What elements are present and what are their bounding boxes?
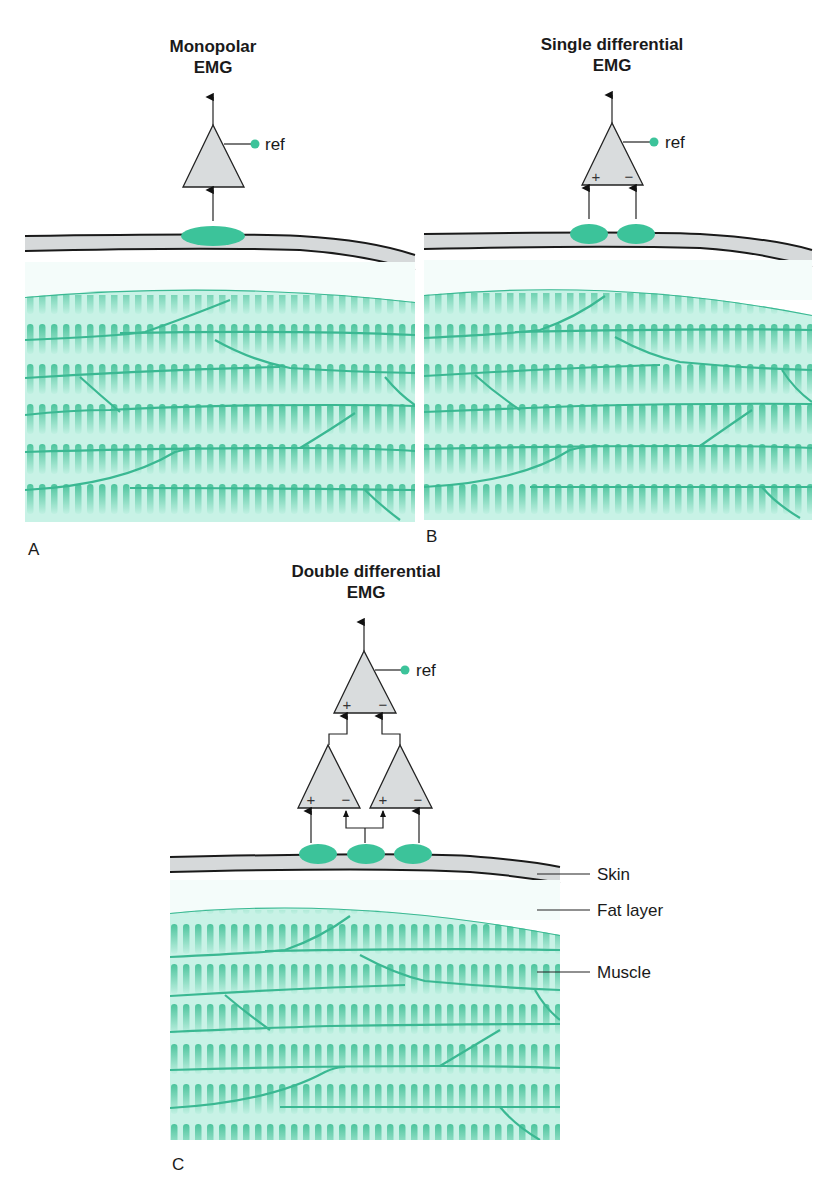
electrode-plus-icon	[570, 224, 608, 244]
ref-label: ref	[665, 133, 685, 152]
minus-sign: −	[625, 168, 634, 185]
electrode-icon	[181, 226, 245, 246]
ref-electrode-icon	[251, 140, 260, 149]
minus-sign: −	[342, 791, 351, 808]
panel-c: Double differential EMG + − ref + − + −	[170, 562, 663, 1174]
plus-sign: +	[307, 791, 316, 808]
skin-label: Skin	[597, 865, 630, 884]
ref-label: ref	[416, 661, 436, 680]
ref-label: ref	[265, 135, 285, 154]
panel-b-label: B	[426, 527, 437, 546]
panel-a-title-line1: Monopolar	[170, 37, 257, 56]
panel-c-title-line1: Double differential	[291, 562, 440, 581]
plus-sign: +	[343, 696, 352, 713]
muscle-tissue	[25, 280, 415, 525]
fat-layer-label: Fat layer	[597, 901, 663, 920]
muscle-tissue	[170, 895, 560, 1143]
panel-b-title-line2: EMG	[593, 56, 632, 75]
panel-c-label: C	[172, 1155, 184, 1174]
muscle-label: Muscle	[597, 963, 651, 982]
ref-electrode-icon	[650, 138, 659, 147]
plus-sign: +	[379, 791, 388, 808]
panel-b: Single differential EMG + − ref	[424, 35, 812, 546]
shared-middle-wire	[346, 811, 383, 828]
panel-a: Monopolar EMG ref	[25, 37, 415, 559]
electrode-1-icon	[299, 844, 337, 864]
panel-c-title-line2: EMG	[347, 583, 386, 602]
left-to-top-wire	[329, 716, 347, 745]
muscle-tissue	[424, 278, 812, 523]
minus-sign: −	[414, 791, 423, 808]
plus-sign: +	[592, 168, 601, 185]
electrode-3-icon	[394, 844, 432, 864]
arrowhead-icon	[343, 810, 349, 817]
ref-electrode-icon	[401, 666, 410, 675]
arrowhead-icon	[380, 810, 386, 817]
amplifier-icon	[183, 125, 244, 187]
panel-a-label: A	[28, 540, 40, 559]
panel-b-title-line1: Single differential	[541, 35, 684, 54]
electrode-minus-icon	[617, 224, 655, 244]
emg-configurations-figure: Monopolar EMG ref	[0, 0, 831, 1187]
minus-sign: −	[379, 696, 388, 713]
electrode-2-icon	[347, 844, 385, 864]
right-to-top-wire	[382, 716, 400, 745]
panel-a-title-line2: EMG	[194, 58, 233, 77]
